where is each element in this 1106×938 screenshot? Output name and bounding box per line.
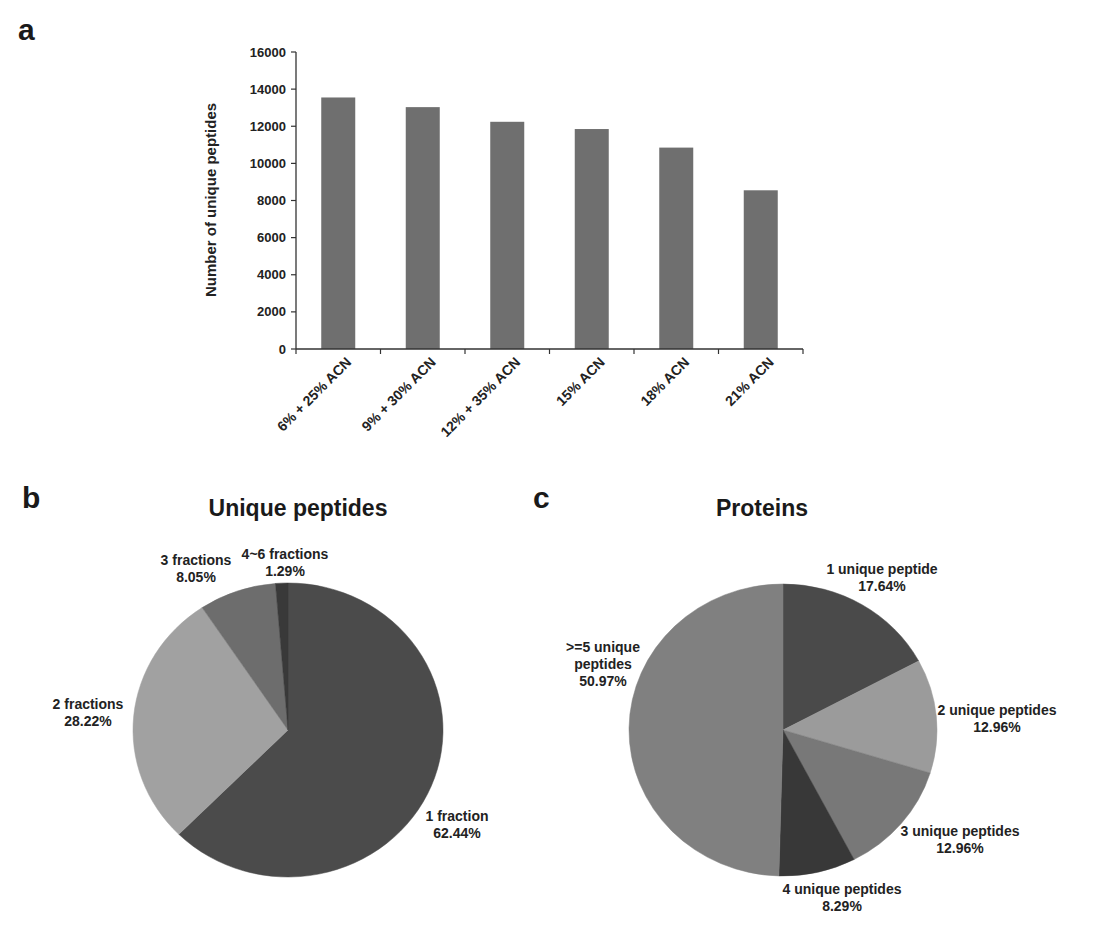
y-tick-label: 4000 <box>257 267 286 282</box>
x-category-label: 12% + 35% ACN <box>437 354 523 440</box>
pie-slice <box>629 584 783 876</box>
y-tick-label: 12000 <box>250 119 286 134</box>
pie-chart-proteins: Proteins 1 unique peptide17.64%2 unique … <box>566 495 1057 914</box>
x-category-label: 21% ACN <box>722 354 777 409</box>
pie-slice-percent: 12.96% <box>936 840 984 856</box>
y-tick-label: 6000 <box>257 230 286 245</box>
y-axis-label: Number of unique peptides <box>202 103 219 297</box>
y-tick-label: 2000 <box>257 304 286 319</box>
pie-slice-percent: 17.64% <box>858 578 906 594</box>
y-axis-ticks: 0200040006000800010000120001400016000 <box>250 45 296 357</box>
pie-slice-percent: 12.96% <box>973 719 1021 735</box>
pie-slice-percent: 50.97% <box>579 673 627 689</box>
panel-letter-a: a <box>18 13 35 46</box>
bar <box>659 148 693 349</box>
x-category-label: 15% ACN <box>553 354 608 409</box>
pie-slice-label: 4 unique peptides <box>782 881 901 897</box>
pie-b-slices <box>133 583 443 877</box>
x-axis-category-labels: 6% + 25% ACN9% + 30% ACN12% + 35% ACN15%… <box>274 354 777 440</box>
bar <box>744 190 778 349</box>
pie-slice-label: 4~6 fractions <box>242 546 329 562</box>
bar <box>321 97 355 349</box>
pie-slice-label: 1 unique peptide <box>826 561 937 577</box>
x-category-label: 18% ACN <box>637 354 692 409</box>
y-tick-label: 0 <box>279 342 286 357</box>
pie-b-title: Unique peptides <box>209 495 388 521</box>
y-tick-label: 16000 <box>250 45 286 60</box>
bar <box>490 122 524 349</box>
pie-slice-percent: 8.05% <box>176 569 216 585</box>
pie-slice-percent: 62.44% <box>433 825 481 841</box>
pie-slice-label: >=5 unique <box>566 639 640 655</box>
panel-letter-b: b <box>22 481 40 514</box>
x-axis-ticks <box>296 349 803 354</box>
y-tick-label: 10000 <box>250 156 286 171</box>
pie-slice-percent: 8.29% <box>822 898 862 914</box>
bar <box>406 107 440 349</box>
x-category-label: 9% + 30% ACN <box>358 354 439 435</box>
pie-slice-label: 2 fractions <box>53 696 124 712</box>
pie-slice-percent: 28.22% <box>64 713 112 729</box>
panel-letter-c: c <box>533 481 550 514</box>
figure: a b c 0200040006000800010000120001400016… <box>0 0 1106 938</box>
pie-chart-unique-peptides: Unique peptides 1 fraction62.44%2 fracti… <box>53 495 489 877</box>
pie-slice-label: 1 fraction <box>425 808 488 824</box>
pie-slice-label: 2 unique peptides <box>937 702 1056 718</box>
y-tick-label: 14000 <box>250 82 286 97</box>
bar <box>575 129 609 349</box>
pie-slice-label: 3 fractions <box>161 552 232 568</box>
y-tick-label: 8000 <box>257 193 286 208</box>
pie-c-slices <box>629 584 937 876</box>
pie-slice-label: 3 unique peptides <box>900 823 1019 839</box>
pie-slice-percent: 1.29% <box>265 563 305 579</box>
pie-slice-label: peptides <box>574 656 632 672</box>
bars <box>321 97 778 349</box>
pie-c-title: Proteins <box>716 495 808 521</box>
bar-chart: 0200040006000800010000120001400016000 Nu… <box>202 45 803 440</box>
x-category-label: 6% + 25% ACN <box>274 354 355 435</box>
